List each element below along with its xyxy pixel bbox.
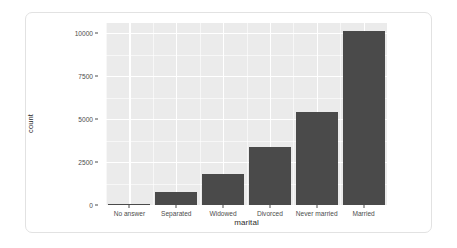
y-axis-tick-label: 0 <box>89 202 93 209</box>
y-axis-tick-mark <box>95 33 98 34</box>
gridline-minor-vertical <box>200 23 201 205</box>
y-axis-tick-label: 7500 <box>78 73 93 80</box>
x-axis-tick-label: Never married <box>296 210 338 217</box>
bar <box>202 174 244 205</box>
gridline-minor-vertical <box>106 23 107 205</box>
x-axis-tick-mark <box>363 205 364 208</box>
x-axis-tick-label: Widowed <box>210 210 237 217</box>
chart-card: count 025005000750010000 No answerSepara… <box>25 12 432 233</box>
y-axis-tick-mark <box>95 205 98 206</box>
x-axis-tick-mark <box>316 205 317 208</box>
bar <box>343 31 385 205</box>
gridline-major-vertical <box>176 23 177 205</box>
x-axis-tick-mark <box>176 205 177 208</box>
bar <box>249 147 291 205</box>
y-axis-tick-mark <box>95 76 98 77</box>
x-axis-tick-mark <box>223 205 224 208</box>
plot-panel <box>106 23 387 205</box>
x-axis-tick-label: Married <box>352 210 374 217</box>
gridline-minor-vertical <box>153 23 154 205</box>
y-axis-title: count <box>21 13 39 234</box>
x-axis-tick-label: Divorced <box>257 210 283 217</box>
x-axis-tick-label: Separated <box>161 210 191 217</box>
gridline-minor-vertical <box>293 23 294 205</box>
y-axis-tick-label: 10000 <box>75 30 93 37</box>
bar-chart: count 025005000750010000 No answerSepara… <box>26 13 433 234</box>
x-axis-tick-mark <box>129 205 130 208</box>
gridline-minor-vertical <box>340 23 341 205</box>
bar <box>155 192 197 205</box>
x-axis-tick-label: No answer <box>114 210 146 217</box>
x-axis-tick-mark <box>269 205 270 208</box>
gridline-major-vertical <box>129 23 130 205</box>
y-axis-tick-label: 5000 <box>78 116 93 123</box>
gridline-minor-vertical <box>247 23 248 205</box>
y-axis-tick-label: 2500 <box>78 159 93 166</box>
x-axis-title: marital <box>106 218 387 227</box>
y-axis-tick-mark <box>95 162 98 163</box>
y-axis-tick-labels: 025005000750010000 <box>48 23 98 205</box>
y-axis-tick-mark <box>95 119 98 120</box>
bar <box>296 112 338 205</box>
